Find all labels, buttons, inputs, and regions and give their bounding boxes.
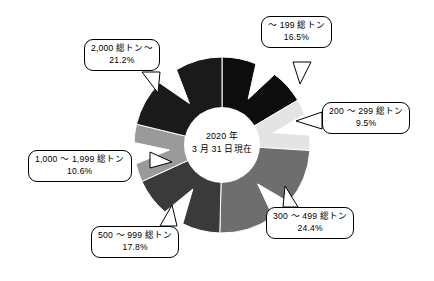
callout-label-2: 300 ～ 499 総トン	[273, 211, 347, 223]
center-note-line1: 2020 年	[182, 130, 262, 143]
callout-label-5: 2,000 総トン～	[91, 43, 153, 55]
callout-slice-1[interactable]: 200 ～ 299 総トン 9.5%	[322, 102, 410, 134]
callout-slice-4[interactable]: 1,000 ～ 1,999 総トン 10.6%	[28, 150, 132, 182]
callout-value-1: 9.5%	[329, 118, 403, 130]
callout-label-3: 500 ～ 999 総トン	[98, 230, 172, 242]
callout-slice-0[interactable]: ～ 199 総トン 16.5%	[261, 16, 332, 48]
callout-label-0: ～ 199 総トン	[268, 20, 325, 32]
callout-slice-2[interactable]: 300 ～ 499 総トン 24.4%	[266, 207, 354, 239]
callout-value-3: 17.8%	[98, 242, 172, 254]
pie-chart-figure: 2020 年 3 月 31 日現在 ～ 199 総トン 16.5% 200 ～ …	[0, 0, 434, 281]
callout-value-4: 10.6%	[35, 166, 125, 178]
callout-slice-5[interactable]: 2,000 総トン～ 21.2%	[84, 39, 160, 71]
callout-value-0: 16.5%	[268, 32, 325, 44]
callout-label-4: 1,000 ～ 1,999 総トン	[35, 154, 125, 166]
callout-value-2: 24.4%	[273, 223, 347, 235]
callout-label-1: 200 ～ 299 総トン	[329, 106, 403, 118]
callout-value-5: 21.2%	[91, 55, 153, 67]
callout-slice-3[interactable]: 500 ～ 999 総トン 17.8%	[91, 226, 179, 258]
center-note: 2020 年 3 月 31 日現在	[182, 130, 262, 156]
center-note-line2: 3 月 31 日現在	[182, 143, 262, 156]
